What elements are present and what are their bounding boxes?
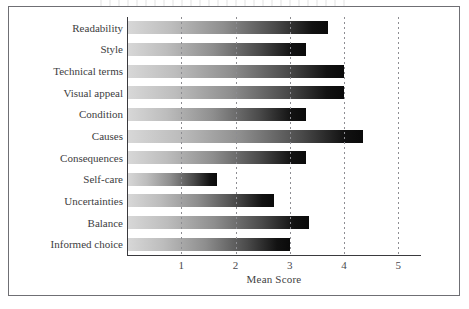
bar bbox=[127, 194, 274, 207]
category-label: Informed choice bbox=[51, 239, 123, 250]
bar-row bbox=[127, 86, 420, 99]
bar-row bbox=[127, 194, 420, 207]
x-axis-title: Mean Score bbox=[127, 273, 421, 285]
category-label: Technical terms bbox=[53, 66, 123, 77]
bar-row bbox=[127, 238, 420, 251]
x-tick-label: 2 bbox=[221, 259, 251, 271]
category-label: Style bbox=[100, 44, 123, 55]
bar bbox=[127, 216, 309, 229]
category-label: Condition bbox=[79, 109, 123, 120]
category-label: Uncertainties bbox=[64, 196, 123, 207]
bar-row bbox=[127, 173, 420, 186]
category-label: Consequences bbox=[60, 153, 123, 164]
gridline bbox=[181, 17, 182, 255]
x-tick-label: 1 bbox=[166, 259, 196, 271]
gridline bbox=[236, 17, 237, 255]
figure-container: ReadabilityStyleTechnical termsVisual ap… bbox=[0, 0, 469, 309]
y-axis-line bbox=[127, 17, 128, 256]
x-tick-label: 4 bbox=[329, 259, 359, 271]
x-tick-label: 3 bbox=[275, 259, 305, 271]
bar bbox=[127, 130, 363, 143]
category-label: Visual appeal bbox=[63, 88, 123, 99]
gridline bbox=[290, 17, 291, 255]
bar bbox=[127, 43, 306, 56]
x-tick-label: 5 bbox=[383, 259, 413, 271]
category-axis-labels: ReadabilityStyleTechnical termsVisual ap… bbox=[10, 17, 123, 255]
gridline bbox=[344, 17, 345, 255]
category-label: Balance bbox=[88, 218, 123, 229]
x-axis-line bbox=[127, 255, 421, 256]
bar-row bbox=[127, 43, 420, 56]
bar bbox=[127, 21, 328, 34]
category-label: Causes bbox=[92, 131, 123, 142]
bar bbox=[127, 173, 217, 186]
category-label: Readability bbox=[72, 23, 123, 34]
bar-row bbox=[127, 21, 420, 34]
bar-row bbox=[127, 151, 420, 164]
bar-row bbox=[127, 216, 420, 229]
bar bbox=[127, 238, 290, 251]
gridline bbox=[398, 17, 399, 255]
category-label: Self-care bbox=[83, 174, 123, 185]
bar-row bbox=[127, 130, 420, 143]
bar-row bbox=[127, 65, 420, 78]
plot-area bbox=[127, 17, 420, 255]
bar-row bbox=[127, 108, 420, 121]
bar bbox=[127, 108, 306, 121]
bar bbox=[127, 151, 306, 164]
